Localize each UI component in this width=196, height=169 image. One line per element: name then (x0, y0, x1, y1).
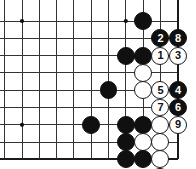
move-number-label: 7 (158, 101, 164, 112)
move-number-label: 4 (175, 84, 181, 95)
stone-black[interactable] (82, 116, 100, 134)
stone-black[interactable] (134, 116, 152, 134)
stone-black[interactable] (117, 47, 135, 65)
star-point (20, 19, 24, 23)
stone-black[interactable] (117, 133, 135, 151)
move-number-label: 8 (175, 32, 181, 43)
move-number-label: 5 (158, 84, 164, 95)
stone-black-move-8[interactable]: 8 (169, 29, 187, 47)
stone-black[interactable] (134, 12, 152, 30)
stone-black[interactable] (117, 116, 135, 134)
star-point (20, 123, 24, 127)
star-point (124, 19, 128, 23)
stone-black-move-6[interactable]: 6 (169, 99, 187, 117)
move-number-label: 9 (175, 119, 181, 130)
move-number-label: 3 (175, 50, 181, 61)
move-number-label: 6 (175, 101, 181, 112)
stone-black-move-4[interactable]: 4 (169, 81, 187, 99)
move-number-label: 1 (158, 50, 164, 61)
move-number-label: 2 (158, 32, 164, 43)
stone-white-move-9[interactable]: 9 (169, 116, 187, 134)
stone-white[interactable] (134, 64, 152, 82)
stone-white-move-3[interactable]: 3 (169, 47, 187, 65)
stone-white-move-1[interactable]: 1 (151, 47, 169, 65)
go-board-diagram: 281354769 (0, 0, 196, 169)
stone-black[interactable] (134, 47, 152, 65)
